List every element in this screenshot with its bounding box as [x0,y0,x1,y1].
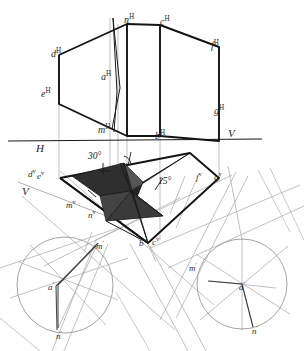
label-c-plan: cv [152,236,159,247]
ground-line-label-v: V [228,128,235,139]
label-a-rotated-right: a' [239,281,245,292]
label-a-elevation: aH [101,71,111,82]
geometry-svg [0,0,304,351]
label-n-rotated-left: n' [56,330,62,341]
label-e-plan: ev [37,170,44,181]
label-f-elevation: fH [211,40,219,51]
label-a-plan: av [121,161,129,172]
label-c-elevation: cH [160,16,170,27]
ground-line-label-h: H [36,143,44,154]
label-m-rotated-right: m' [189,262,197,273]
elevation-line-man [112,18,120,132]
angle-label-30: 30° [88,152,101,162]
label-f-plan: fv [196,171,202,182]
label-b-plan: bv [139,237,147,248]
elevation-prism-outline [59,24,219,141]
label-n-plan: nv [88,209,96,220]
label-d-plan: dv [28,168,36,179]
label-a-rotated-left: a' [48,281,54,292]
drawing-canvas: H V V 30° 15° nH cH fH dH aH eH gH mH bH… [0,0,304,351]
bottom-faint-lines [0,168,304,351]
label-g-elevation: gH [214,105,224,116]
construction-lines [0,18,304,351]
ground-line [8,139,262,141]
label-m-rotated-left: m' [96,240,104,251]
label-b-elevation: bH [155,130,165,141]
label-e-elevation: eH [41,88,51,99]
label-g-plan: gv [214,171,222,182]
angle-label-15: 15° [158,177,171,187]
label-n-rotated-right: n' [252,325,258,336]
label-n-elevation: nH [124,14,134,25]
label-m-plan: mv [66,199,76,210]
secondary-axis-label-v: V [22,186,29,197]
label-d-elevation: dH [51,48,61,59]
label-m-elevation: mH [98,124,110,135]
